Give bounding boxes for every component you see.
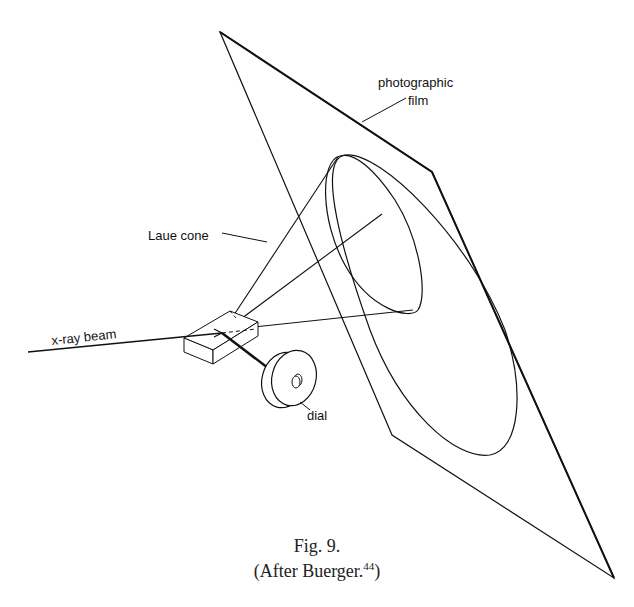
figure-caption-line2: (After Buerger.44) [254,560,381,582]
cone-axis [222,214,382,333]
film-label-line1: photographic [378,75,454,90]
film-leader [362,98,406,122]
figure-caption-line1: Fig. 9. [294,536,341,556]
dial [256,345,323,412]
cone-label: Laue cone [148,228,209,243]
caption-superscript: 44 [363,560,375,572]
cone-leader [222,233,267,242]
laue-diagram: photographic film Laue cone x-ray beam d… [0,0,634,607]
film-label-line2: film [408,93,428,108]
dial-label: dial [307,408,327,423]
photographic-film [220,32,614,578]
film-ellipse [332,155,517,456]
crystal [184,311,258,364]
caption-suffix: ) [374,561,380,582]
film-edge-thick [220,32,614,578]
caption-prefix: (After Buerger. [254,561,364,582]
cone-upper-edge [222,157,338,333]
